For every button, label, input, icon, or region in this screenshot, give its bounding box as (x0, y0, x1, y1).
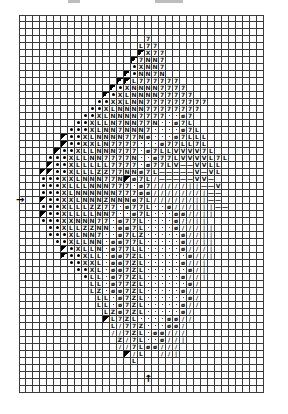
grid-cell: L (75, 169, 82, 176)
grid-cell (229, 169, 236, 176)
grid-cell (194, 365, 201, 372)
grid-cell (19, 176, 26, 183)
grid-cell (89, 36, 96, 43)
grid-cell (75, 365, 82, 372)
grid-cell (96, 351, 103, 358)
grid-cell (215, 211, 222, 218)
grid-cell (54, 309, 61, 316)
grid-cell: 7 (180, 92, 187, 99)
grid-cell (110, 92, 117, 99)
grid-cell (33, 358, 40, 365)
grid-cell: 7 (117, 190, 124, 197)
grid-cell: ø (173, 211, 180, 218)
grid-cell (19, 155, 26, 162)
grid-cell (40, 295, 47, 302)
grid-cell: L (208, 148, 215, 155)
grid-cell (26, 120, 33, 127)
grid-cell (19, 141, 26, 148)
grid-cell: / (187, 218, 194, 225)
grid-cell (82, 365, 89, 372)
grid-cell: L (138, 253, 145, 260)
grid-cell: L (215, 162, 222, 169)
grid-cell (229, 253, 236, 260)
grid-cell (250, 162, 257, 169)
grid-cell (103, 64, 110, 71)
grid-cell (19, 15, 26, 22)
grid-cell (68, 120, 75, 127)
grid-cell (61, 253, 68, 260)
grid-cell (68, 295, 75, 302)
grid-cell (208, 316, 215, 323)
grid-cell: — (201, 169, 208, 176)
grid-cell (236, 92, 243, 99)
grid-cell (75, 29, 82, 36)
grid-cell (173, 288, 180, 295)
grid-cell (208, 71, 215, 78)
grid-cell: N (131, 99, 138, 106)
grid-cell (61, 372, 68, 379)
grid-cell (96, 64, 103, 71)
grid-cell: ø (166, 316, 173, 323)
grid-cell: | (201, 274, 208, 281)
grid-cell (222, 253, 229, 260)
grid-cell: N (152, 120, 159, 127)
grid-cell (229, 274, 236, 281)
grid-cell: L (96, 162, 103, 169)
grid-cell (26, 372, 33, 379)
grid-cell: 7 (117, 162, 124, 169)
grid-cell (159, 379, 166, 386)
grid-cell (33, 15, 40, 22)
grid-cell (96, 99, 103, 106)
grid-cell (26, 211, 33, 218)
grid-cell: V (180, 148, 187, 155)
grid-cell (47, 344, 54, 351)
grid-cell (257, 57, 264, 64)
grid-cell (68, 106, 75, 113)
grid-cell (236, 64, 243, 71)
grid-cell (68, 71, 75, 78)
grid-cell (243, 260, 250, 267)
grid-cell (33, 155, 40, 162)
grid-cell (26, 43, 33, 50)
grid-cell (173, 232, 180, 239)
grid-cell: / (180, 218, 187, 225)
grid-cell (173, 295, 180, 302)
grid-cell (222, 15, 229, 22)
grid-cell: 7 (138, 211, 145, 218)
grid-cell: N (124, 106, 131, 113)
grid-cell (68, 330, 75, 337)
grid-cell (222, 29, 229, 36)
grid-cell (145, 295, 152, 302)
grid-cell (33, 337, 40, 344)
grid-cell: X (89, 120, 96, 127)
grid-cell (47, 274, 54, 281)
grid-cell (89, 22, 96, 29)
grid-cell (229, 43, 236, 50)
grid-cell (19, 225, 26, 232)
grid-cell: N (117, 113, 124, 120)
grid-cell (229, 78, 236, 85)
grid-cell (152, 204, 159, 211)
grid-cell (61, 85, 68, 92)
grid-cell (124, 78, 131, 85)
grid-cell (222, 120, 229, 127)
grid-cell (243, 113, 250, 120)
grid-cell (117, 372, 124, 379)
grid-cell: L (89, 288, 96, 295)
grid-cell (152, 22, 159, 29)
grid-cell: X (96, 113, 103, 120)
grid-cell (187, 358, 194, 365)
grid-cell (26, 323, 33, 330)
grid-cell: 7 (215, 155, 222, 162)
grid-cell (201, 330, 208, 337)
grid-cell: | (180, 337, 187, 344)
grid-cell: L (131, 232, 138, 239)
grid-cell (152, 323, 159, 330)
grid-cell (215, 239, 222, 246)
grid-cell: ø (110, 288, 117, 295)
grid-cell (54, 29, 61, 36)
grid-cell (201, 379, 208, 386)
grid-cell (201, 64, 208, 71)
grid-cell (61, 15, 68, 22)
grid-cell: / (159, 190, 166, 197)
